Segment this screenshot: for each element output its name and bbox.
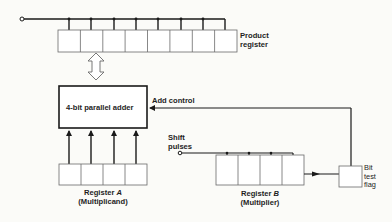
bit-test-flag-label-line3: flag bbox=[364, 181, 376, 190]
product-register-label-line1: Product bbox=[240, 31, 269, 40]
shift-pulses-line bbox=[178, 151, 293, 155]
arrow-head-icon bbox=[312, 172, 320, 177]
register-b bbox=[216, 155, 304, 185]
bidirectional-bus-arrow bbox=[88, 53, 104, 80]
bit-test-flag-box bbox=[339, 166, 362, 187]
register-a-sublabel: (Multiplicand) bbox=[59, 197, 147, 206]
shift-pulses-label-line2: pulses bbox=[168, 142, 192, 151]
shift-pulses-label-line1: Shift bbox=[168, 133, 192, 142]
register-b-sublabel: (Multiplier) bbox=[216, 198, 304, 207]
register-a-var: A bbox=[117, 188, 122, 197]
product-register-label: Product register bbox=[240, 31, 269, 49]
product-register bbox=[58, 30, 237, 52]
product-register-label-line2: register bbox=[240, 40, 269, 49]
register-b-label: Register B (Multiplier) bbox=[216, 189, 304, 207]
register-b-title: Register B bbox=[216, 189, 304, 198]
product-shift-line bbox=[20, 17, 225, 30]
add-control-label: Add control bbox=[152, 96, 195, 105]
shift-pulses-label: Shift pulses bbox=[168, 133, 192, 151]
adder-label: 4-bit parallel adder bbox=[66, 103, 134, 112]
register-a-label: Register A (Multiplicand) bbox=[59, 188, 147, 206]
register-b-var: B bbox=[274, 189, 279, 198]
register-a-title: Register A bbox=[59, 188, 147, 197]
bit-test-flag-label: Bit test flag bbox=[364, 164, 376, 190]
register-a-prefix: Register bbox=[84, 188, 117, 197]
register-a bbox=[59, 164, 147, 185]
register-a-to-adder-arrows bbox=[69, 131, 136, 164]
register-b-prefix: Register bbox=[241, 189, 274, 198]
